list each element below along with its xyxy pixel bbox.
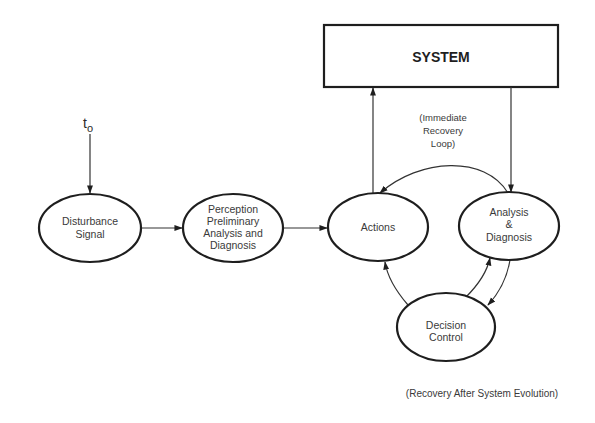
actions-node: Actions [328, 193, 428, 261]
immediate-recovery-loop-annotation: (Immediate Recovery Loop) [419, 112, 467, 149]
perception-label-line1: Perception [208, 203, 258, 215]
analysis-diagnosis-node: Analysis & Diagnosis [459, 192, 559, 260]
system-node: SYSTEM [324, 25, 558, 87]
decision-label-line2: Control [429, 331, 463, 343]
loop-label-line3: Loop) [431, 138, 455, 149]
loop-label-line1: (Immediate [419, 112, 467, 123]
disturbance-signal-node: Disturbance Signal [39, 194, 141, 262]
actions-label: Actions [361, 221, 395, 233]
disturbance-label-line1: Disturbance [62, 215, 118, 227]
t0-subscript: o [87, 122, 93, 134]
recovery-process-diagram: SYSTEM to Disturbance Signal Perception [0, 0, 595, 423]
t0-label: to [83, 115, 93, 134]
decision-control-node: Decision Control [397, 293, 495, 361]
perception-label-line4: Diagnosis [210, 239, 256, 251]
edge-analysis-to-decision [488, 260, 510, 305]
analysis-label-line2: & [505, 218, 512, 230]
analysis-label-line3: Diagnosis [486, 231, 532, 243]
start-marker: to [83, 115, 93, 134]
evolution-caption: (Recovery After System Evolution) [406, 388, 558, 399]
edge-decision-to-actions [385, 262, 408, 305]
loop-label-line2: Recovery [423, 125, 463, 136]
perception-label-line2: Preliminary [207, 215, 260, 227]
edge-decision-to-analysis [466, 258, 490, 297]
edge-immediate-recovery-loop [380, 166, 508, 193]
perception-node: Perception Preliminary Analysis and Diag… [183, 194, 283, 262]
analysis-label-line1: Analysis [489, 206, 528, 218]
system-label: SYSTEM [412, 49, 470, 65]
disturbance-label-line2: Signal [75, 228, 104, 240]
decision-label-line1: Decision [426, 319, 466, 331]
perception-label-line3: Analysis and [203, 227, 263, 239]
